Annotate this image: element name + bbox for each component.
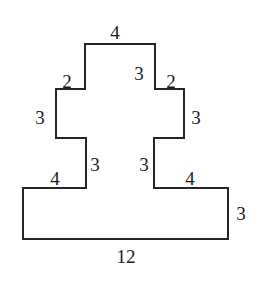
dimension-label-right-4: 4 <box>185 169 195 188</box>
dimension-label-far-right-3: 3 <box>236 204 246 223</box>
dimension-label-inner-right-3: 3 <box>139 155 149 174</box>
dimension-label-bottom-12: 12 <box>117 247 136 266</box>
polygon-shape <box>23 44 228 239</box>
geometry-figure: 4 3 2 2 3 3 3 3 4 4 3 12 <box>0 0 266 282</box>
dimension-label-left-3: 3 <box>35 108 45 127</box>
dimension-label-inner-left-3: 3 <box>90 155 100 174</box>
dimension-label-left-4: 4 <box>50 169 60 188</box>
dimension-label-right-3: 3 <box>191 108 201 127</box>
dimension-label-inner-top-3: 3 <box>134 64 144 83</box>
dimension-label-left-2: 2 <box>62 72 72 91</box>
dimension-label-top-4: 4 <box>110 23 120 42</box>
polygon-outline-svg <box>0 0 266 282</box>
dimension-label-right-2: 2 <box>166 72 176 91</box>
